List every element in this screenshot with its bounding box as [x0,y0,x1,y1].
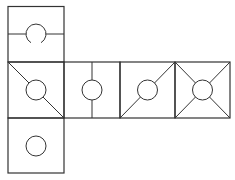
face-middle-1-diagonal-b [43,97,64,118]
cube-net-diagram [0,0,235,180]
face-bottom-circle-icon [26,136,46,156]
face-bottom [8,118,64,173]
face-middle-4-diagonal-tr [210,62,231,83]
face-middle-3-circle-icon [138,80,158,100]
face-middle-2-circle-icon [82,80,102,100]
face-middle-1-circle-icon [26,80,46,100]
face-top [8,7,64,63]
face-middle-3-diagonal-a [120,97,141,118]
face-middle-3 [120,62,175,118]
face-middle-3-diagonal-b [155,62,176,83]
face-middle-4 [175,62,230,118]
face-middle-4-diagonal-br [210,97,231,118]
face-middle-2 [64,62,120,118]
face-middle-4-diagonal-tl [175,62,196,83]
face-bottom-border [8,118,64,173]
face-middle-4-diagonal-bl [175,97,196,118]
face-middle-4-circle-icon [193,80,213,100]
face-middle-1-diagonal-a [8,62,29,83]
face-top-open-circle-icon [26,24,46,43]
face-middle-1 [8,62,64,118]
